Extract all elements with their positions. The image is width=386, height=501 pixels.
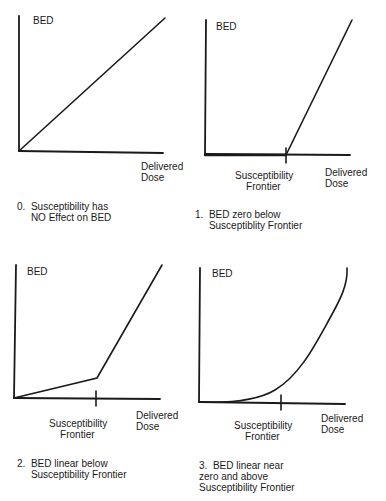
- panel-3-frontier-label: Susceptibility Frontier: [234, 420, 292, 442]
- panel-0-plot: [19, 16, 165, 153]
- panel-3-x-axis-label: Delivered Dose: [321, 413, 363, 435]
- panel-2-frontier-label: Susceptibility Frontier: [49, 418, 107, 440]
- panel-0-caption: 0. Susceptibility has NO Effect on BED: [17, 201, 111, 223]
- panel-2-y-axis: [14, 265, 16, 398]
- panel-0-x-axis-label: Delivered Dose: [141, 161, 183, 183]
- panel-1-curve: [286, 20, 352, 155]
- panel-2-x-axis: [14, 398, 160, 399]
- panel-3-curve: [199, 268, 347, 402]
- panel-1-y-axis-label: BED: [216, 21, 237, 32]
- panel-0-x-axis: [19, 151, 163, 153]
- panel-0-y-axis-label: BED: [33, 15, 54, 26]
- panel-3-y-axis-label: BED: [212, 268, 233, 279]
- panel-2-caption: 2. BED linear below Susceptibility Front…: [17, 458, 126, 480]
- panel-2-curve: [14, 265, 162, 398]
- panel-1-x-axis-label: Delivered Dose: [325, 167, 367, 189]
- panel-3-caption: 3. BED linear near zero and above Suscep…: [199, 460, 295, 493]
- panel-2-plot: [14, 265, 162, 406]
- panel-1-y-axis: [205, 20, 206, 154]
- panel-2-y-axis-label: BED: [27, 266, 48, 277]
- panel-1-frontier-label: Susceptibility Frontier: [235, 170, 293, 192]
- panel-2-x-axis-label: Delivered Dose: [136, 410, 178, 432]
- panel-0-curve: [19, 18, 165, 151]
- panel-1-caption: 1. BED zero below Susceptiblity Frontier: [195, 209, 302, 231]
- panel-3-y-axis: [199, 268, 200, 402]
- panel-3-plot: [199, 268, 347, 410]
- panel-1-plot: [205, 20, 352, 163]
